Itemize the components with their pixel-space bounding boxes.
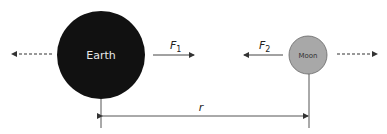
moon-label: Moon [298,52,317,60]
earth-moon-force-diagram: Earth F1 F2 Moon r [0,0,387,134]
force2-label: F2 [259,39,270,54]
earth-label: Earth [86,49,116,62]
distance-label: r [199,101,205,114]
force1-label: F1 [170,39,181,54]
diagram-svg: Earth F1 F2 Moon r [0,0,387,134]
